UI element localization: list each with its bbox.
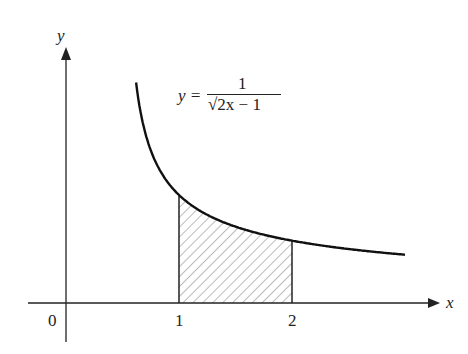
x-axis-label: x (446, 293, 454, 313)
equation-denominator: √2x − 1 (208, 95, 261, 115)
y-axis-label: y (57, 26, 65, 46)
origin-label: 0 (48, 311, 57, 331)
shaded-area (179, 195, 292, 303)
equation-lhs: y = (178, 86, 201, 106)
tick-label-1: 1 (175, 311, 184, 331)
figure: y x 0 1 2 y = 1 √2x − 1 (0, 0, 468, 354)
tick-label-2: 2 (288, 311, 297, 331)
function-curve (136, 83, 405, 255)
plot-canvas (0, 0, 468, 354)
y-axis-arrow-icon (61, 47, 71, 60)
x-axis-arrow-icon (428, 298, 440, 308)
equation-numerator: 1 (238, 74, 247, 94)
